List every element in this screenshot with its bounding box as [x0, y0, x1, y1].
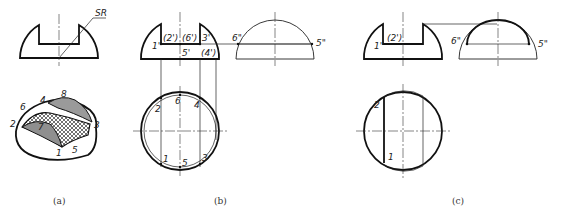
caption-b: (b)	[214, 196, 227, 206]
b-top-label-6: 6	[175, 96, 181, 106]
b-top-label-3: 3	[202, 153, 208, 163]
panel-a: SR 2 6 4 8 7 3 1 5 (a)	[10, 8, 107, 206]
b-front-label-3: 3'	[202, 33, 210, 43]
panel-a-front-view: SR	[20, 8, 107, 66]
iso-label-7: 7	[38, 122, 44, 132]
panel-c-front-view: 1' (2')	[364, 12, 497, 66]
c-side-label-5: 5"	[538, 39, 548, 49]
b-front-label-6: (6')	[182, 33, 197, 43]
c-top-label-1: 1	[388, 152, 394, 162]
b-side-label-5: 5"	[316, 38, 326, 48]
c-side-label-6: 6"	[451, 36, 461, 46]
caption-a: (a)	[53, 196, 65, 206]
panel-a-isometric-view: 2 6 4 8 7 3 1 5	[10, 89, 100, 160]
c-front-label-1: 1'	[374, 41, 382, 51]
panel-b: 1' (2') (6') 3' 5' (4') 6" 5"	[133, 12, 326, 206]
iso-label-4: 4	[40, 95, 46, 105]
iso-label-3: 3	[94, 120, 100, 130]
panel-b-top-view: 2 6 4 1 5 3	[133, 86, 227, 178]
panel-b-front-view: 1' (2') (6') 3' 5' (4')	[141, 12, 310, 167]
b-top-label-2: 2	[155, 104, 161, 114]
b-front-label-1: 1'	[152, 41, 160, 51]
caption-c: (c)	[452, 196, 464, 206]
iso-label-8: 8	[61, 89, 67, 99]
b-front-label-2: (2')	[163, 33, 178, 43]
panel-c-top-view: 2 1	[356, 84, 452, 180]
iso-label-5: 5	[72, 145, 78, 155]
panel-b-side-view: 6" 5"	[232, 12, 326, 66]
b-front-label-5: 5'	[182, 48, 190, 58]
iso-label-1: 1	[56, 148, 62, 158]
b-top-label-5: 5	[182, 158, 188, 168]
c-top-label-2: 2	[374, 100, 380, 110]
b-front-label-4: (4')	[201, 48, 216, 58]
panel-c: 1' (2') 6" 5" 2 1 (c)	[356, 12, 548, 206]
c-front-label-2: (2')	[387, 33, 402, 43]
b-top-label-4: 4	[194, 100, 200, 110]
technical-drawing: SR 2 6 4 8 7 3 1 5 (a)	[0, 0, 561, 215]
b-side-label-6: 6"	[232, 33, 242, 43]
sr-dimension-label: SR	[95, 8, 107, 18]
iso-label-2: 2	[10, 119, 16, 129]
b-top-label-1: 1	[163, 154, 169, 164]
panel-c-side-view: 6" 5"	[451, 12, 548, 66]
iso-label-6: 6	[20, 102, 26, 112]
